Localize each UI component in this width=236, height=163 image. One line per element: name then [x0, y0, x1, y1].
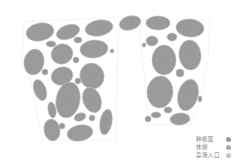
planting-plot [174, 77, 202, 113]
planting-plot [170, 112, 191, 126]
planting-plot [198, 96, 202, 102]
planting-plot [73, 57, 79, 63]
planting-plot [176, 69, 184, 77]
planting-plot [79, 39, 108, 59]
planting-plot [110, 49, 114, 53]
entrance-swatch [226, 153, 231, 158]
planting-plot [75, 78, 81, 84]
rest-swatch [226, 145, 231, 150]
planting-plot [74, 37, 82, 43]
planting-plot [25, 21, 56, 44]
planting-plot [79, 85, 105, 116]
legend-item-entrance: 菜场入口 [196, 151, 231, 159]
planting-plot [42, 118, 62, 142]
planting-plot [164, 107, 172, 113]
planting-plot [146, 16, 170, 30]
legend: 种植区 休憩 菜场入口 [196, 135, 231, 159]
planting-swatch [226, 137, 231, 142]
planting-plot [59, 123, 65, 129]
planting-plot [175, 18, 204, 38]
planting-plot [151, 112, 161, 118]
planting-plot [42, 69, 48, 75]
planting-plot [152, 45, 176, 75]
planting-plot [31, 78, 50, 103]
planting-plot [89, 115, 95, 121]
legend-item-rest: 休憩 [196, 143, 231, 151]
planting-plot [145, 116, 151, 122]
planting-plot [84, 18, 114, 39]
legend-item-planting: 种植区 [196, 135, 231, 143]
planting-plot [146, 75, 175, 109]
planting-plot [142, 43, 146, 47]
planting-plot [167, 33, 177, 41]
planting-plot [46, 41, 56, 47]
planting-plot [178, 39, 203, 71]
planting-plot [98, 108, 114, 136]
planting-plot [146, 36, 158, 46]
